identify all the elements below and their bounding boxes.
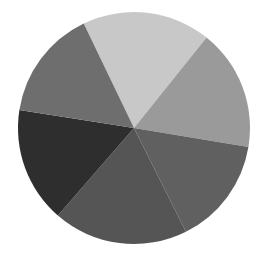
pie-chart [0,0,259,259]
pie-chart-canvas [0,0,259,259]
